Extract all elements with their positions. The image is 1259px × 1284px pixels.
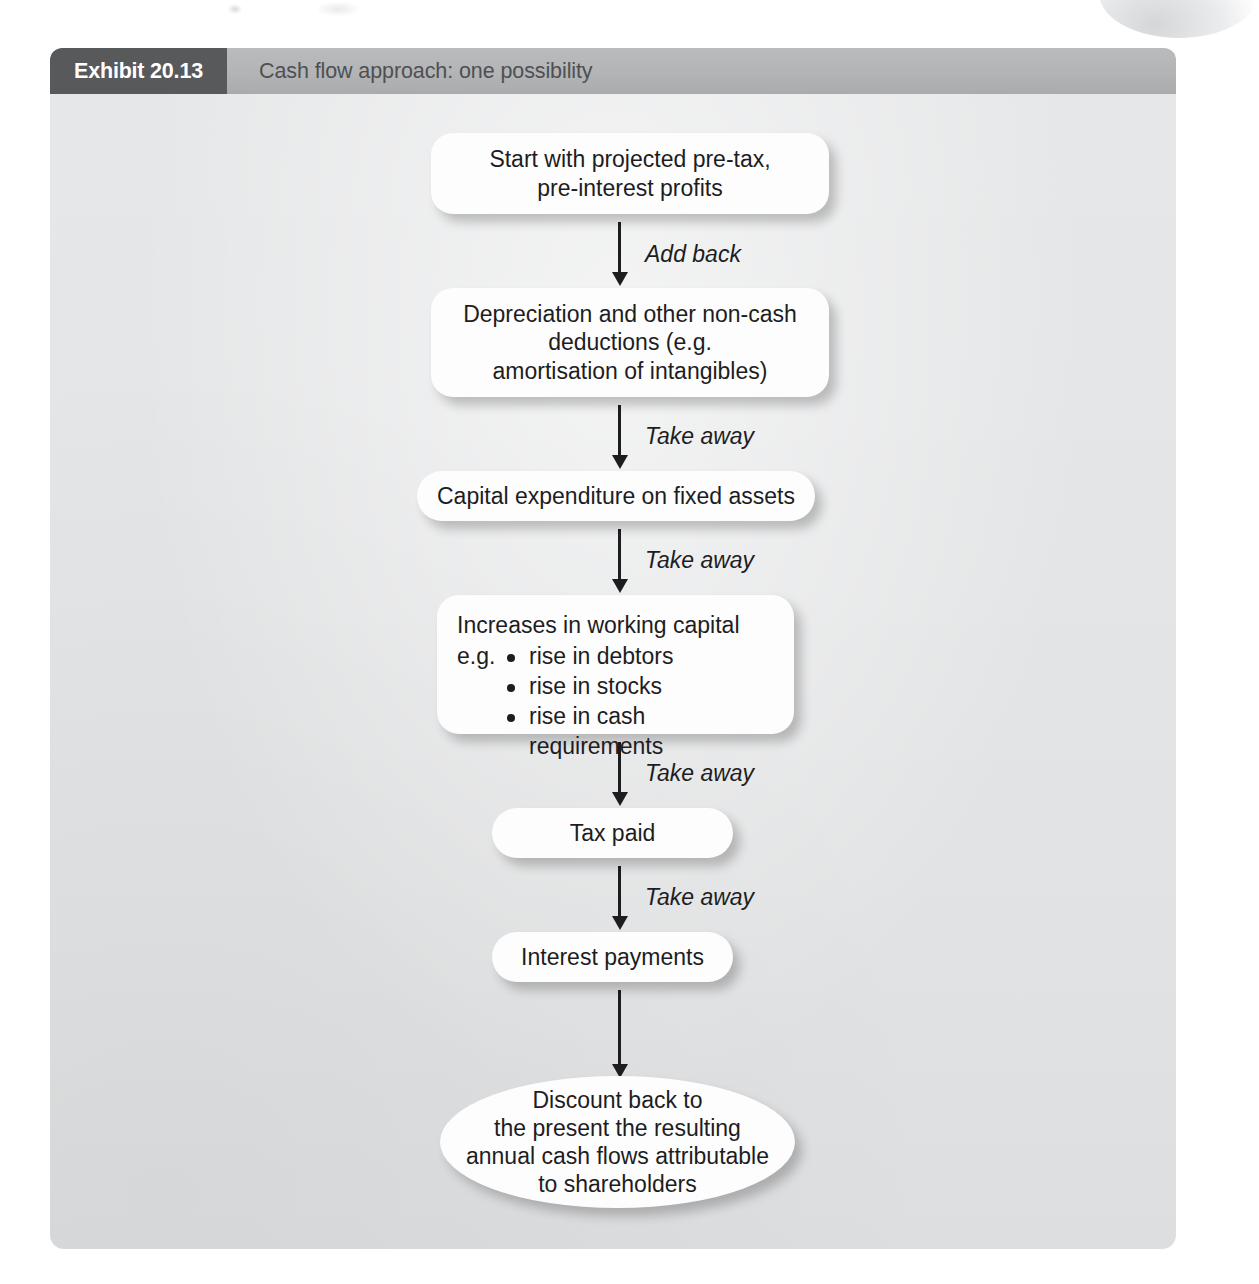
node-line: pre-interest profits bbox=[445, 174, 815, 202]
page-curl-artifact bbox=[1099, 0, 1259, 38]
node-line: deductions (e.g. bbox=[445, 328, 815, 356]
flow-arrow-label-4: Take away bbox=[645, 760, 754, 787]
exhibit-body: Start with projected pre-tax, pre-intere… bbox=[50, 94, 1176, 1249]
node-line: Interest payments bbox=[506, 943, 719, 971]
flow-arrow-1 bbox=[618, 222, 621, 274]
flow-node-discount-back: Discount back to the present the resulti… bbox=[440, 1076, 795, 1208]
exhibit-figure: Exhibit 20.13 Cash flow approach: one po… bbox=[50, 48, 1176, 1249]
node-line: Capital expenditure on fixed assets bbox=[431, 482, 801, 510]
scan-smudge-artifact bbox=[318, 2, 358, 16]
working-capital-bullet: rise in debtors bbox=[503, 642, 776, 672]
bullet-text: rise in debtors bbox=[529, 643, 673, 669]
bullet-text: rise in cash requirements bbox=[529, 703, 663, 759]
scan-speck-artifact bbox=[228, 4, 242, 14]
exhibit-header: Exhibit 20.13 Cash flow approach: one po… bbox=[50, 48, 1176, 94]
flow-arrow-label-3: Take away bbox=[645, 547, 754, 574]
flow-arrow-2 bbox=[618, 405, 621, 457]
bullet-icon bbox=[507, 714, 515, 722]
node-line: amortisation of intangibles) bbox=[445, 357, 815, 385]
node-line: to shareholders bbox=[454, 1170, 781, 1198]
flow-node-interest-payments: Interest payments bbox=[492, 932, 733, 982]
flow-node-depreciation: Depreciation and other non-cash deductio… bbox=[431, 288, 829, 397]
node-line: Depreciation and other non-cash bbox=[445, 300, 815, 328]
bullet-icon bbox=[507, 684, 515, 692]
working-capital-bullet: rise in cash requirements bbox=[503, 702, 776, 762]
flow-arrow-3 bbox=[618, 529, 621, 581]
flow-node-start-profits: Start with projected pre-tax, pre-intere… bbox=[431, 133, 829, 214]
flow-node-capital-expenditure: Capital expenditure on fixed assets bbox=[417, 471, 815, 521]
flow-node-tax-paid: Tax paid bbox=[492, 808, 733, 858]
flow-node-working-capital: Increases in working capital e.g. rise i… bbox=[437, 595, 794, 734]
working-capital-eg-label: e.g. bbox=[457, 642, 503, 762]
working-capital-heading: Increases in working capital bbox=[457, 611, 776, 641]
node-line: annual cash flows attributable bbox=[454, 1142, 781, 1170]
flow-arrow-label-5: Take away bbox=[645, 884, 754, 911]
flow-arrow-6 bbox=[618, 990, 621, 1066]
flow-arrow-label-2: Take away bbox=[645, 423, 754, 450]
flowchart: Start with projected pre-tax, pre-intere… bbox=[50, 94, 1176, 1249]
bullet-text: rise in stocks bbox=[529, 673, 662, 699]
flow-arrow-5 bbox=[618, 866, 621, 918]
flow-arrow-label-1: Add back bbox=[645, 241, 741, 268]
node-line: Discount back to bbox=[454, 1086, 781, 1114]
node-line: the present the resulting bbox=[454, 1114, 781, 1142]
exhibit-title: Cash flow approach: one possibility bbox=[227, 48, 1176, 94]
bullet-icon bbox=[507, 654, 515, 662]
exhibit-number-badge: Exhibit 20.13 bbox=[50, 48, 227, 94]
node-line: Start with projected pre-tax, bbox=[445, 145, 815, 173]
working-capital-bullet: rise in stocks bbox=[503, 672, 776, 702]
node-line: Tax paid bbox=[506, 819, 719, 847]
